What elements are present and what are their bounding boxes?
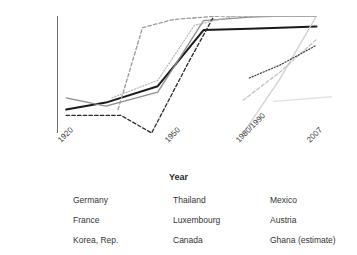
legend-item-ghana-estimate[interactable]: Ghana (estimate) xyxy=(243,235,346,245)
coverage-line-chart: Coverage % 100806040200 192019501980/199… xyxy=(0,0,357,255)
series-line-korea-rep xyxy=(243,16,316,133)
legend-item-thailand[interactable]: Thailand xyxy=(146,195,243,205)
chart-legend: GermanyThailandMexicoFranceLuxembourgAus… xyxy=(46,190,346,250)
legend-item-luxembourg[interactable]: Luxembourg xyxy=(146,215,243,225)
legend-label: France xyxy=(73,215,99,225)
legend-label: Mexico xyxy=(270,195,297,205)
plot-area xyxy=(57,16,347,133)
legend-item-korea-rep[interactable]: Korea, Rep. xyxy=(46,235,146,245)
legend-item-austria[interactable]: Austria xyxy=(243,215,346,225)
series-line-france xyxy=(66,16,316,106)
series-line-ghana-estimate xyxy=(274,97,332,102)
legend-label: Germany xyxy=(73,195,108,205)
legend-item-mexico[interactable]: Mexico xyxy=(243,195,346,205)
legend-label: Austria xyxy=(270,215,296,225)
plot-svg xyxy=(57,16,347,133)
series-line-canada xyxy=(243,39,316,100)
legend-label: Luxembourg xyxy=(173,215,220,225)
legend-item-germany[interactable]: Germany xyxy=(46,195,146,205)
legend-label: Ghana (estimate) xyxy=(270,235,336,245)
x-axis-title: Year xyxy=(0,172,357,182)
legend-label: Canada xyxy=(173,235,203,245)
legend-item-france[interactable]: France xyxy=(46,215,146,225)
series-line-thailand xyxy=(66,18,213,133)
legend-label: Thailand xyxy=(173,195,206,205)
legend-item-canada[interactable]: Canada xyxy=(146,235,243,245)
legend-label: Korea, Rep. xyxy=(73,235,118,245)
